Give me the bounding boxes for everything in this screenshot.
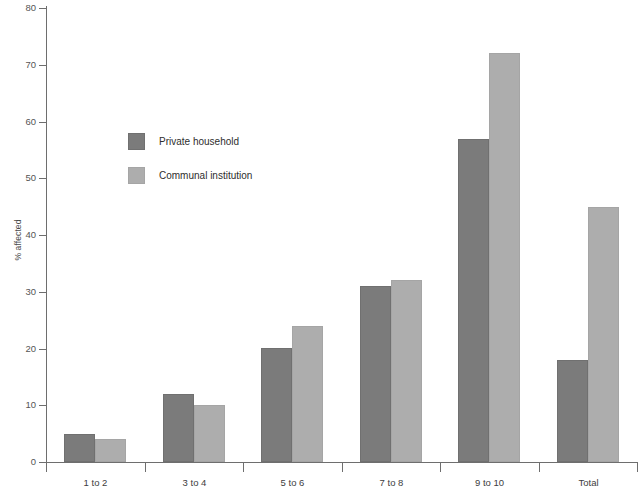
bar (588, 207, 619, 462)
x-axis-tick-mark (342, 462, 343, 472)
y-axis-tick-label: 30 (2, 287, 36, 297)
x-axis-tick-mark (637, 462, 638, 472)
bar (360, 286, 391, 462)
y-axis-tick-label: 80 (2, 3, 36, 13)
x-axis-tick-mark (539, 462, 540, 472)
bar (292, 326, 323, 462)
y-axis-tick-label: 40 (2, 230, 36, 240)
bar (489, 53, 520, 462)
y-axis-tick-mark (39, 349, 46, 350)
x-axis-category-label: 5 to 6 (243, 478, 342, 488)
y-axis-tick-mark (39, 65, 46, 66)
legend-label-communal-institution: Communal institution (159, 171, 252, 181)
legend-swatch-icon-communal-institution (128, 167, 145, 184)
y-axis-tick-label: 50 (2, 174, 36, 184)
x-axis-category-label: 9 to 10 (440, 478, 539, 488)
y-axis-tick-mark (39, 8, 46, 9)
bar (261, 348, 292, 462)
x-axis-tick-mark (440, 462, 441, 472)
legend-item-private-household: Private household (128, 133, 252, 150)
y-axis-tick-mark (39, 405, 46, 406)
y-axis-tick-mark (39, 178, 46, 179)
y-axis-tick-mark (39, 292, 46, 293)
bar (163, 394, 194, 462)
y-axis-tick-label: 20 (2, 344, 36, 354)
bar-chart: % affected 01020304050607080 1 to 23 to … (0, 0, 639, 504)
legend-label-private-household: Private household (159, 137, 239, 147)
bar (194, 405, 225, 462)
y-axis-tick-label: 0 (2, 457, 36, 467)
bar (557, 360, 588, 462)
bar (64, 434, 95, 462)
y-axis-tick-label: 60 (2, 117, 36, 127)
y-axis-tick-mark (39, 462, 46, 463)
bar (95, 439, 126, 462)
y-axis-tick-label: 70 (2, 60, 36, 70)
x-axis-tick-mark (243, 462, 244, 472)
legend-item-communal-institution: Communal institution (128, 167, 252, 184)
x-axis-category-label: 1 to 2 (46, 478, 145, 488)
chart-legend: Private household Communal institution (128, 133, 252, 201)
y-axis-title: % affected (13, 200, 23, 280)
legend-swatch-icon-private-household (128, 133, 145, 150)
bar (391, 280, 422, 462)
x-axis-tick-mark (46, 462, 47, 472)
x-axis-category-label: Total (539, 478, 638, 488)
y-axis-tick-mark (39, 122, 46, 123)
y-axis-tick-mark (39, 235, 46, 236)
y-axis-tick-label: 10 (2, 401, 36, 411)
x-axis-category-label: 3 to 4 (145, 478, 244, 488)
y-axis-line (46, 6, 47, 463)
x-axis-tick-mark (145, 462, 146, 472)
x-axis-category-label: 7 to 8 (342, 478, 441, 488)
bar (458, 139, 489, 462)
